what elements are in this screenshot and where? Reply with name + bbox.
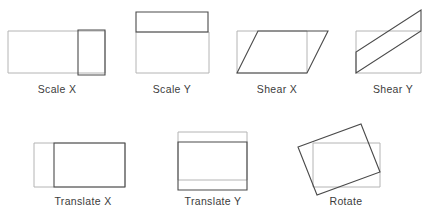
cell-shear-x: Shear X [237, 31, 328, 95]
label-translate-y: Translate Y [185, 195, 242, 207]
figure-canvas: Scale X Scale Y Shear X Shear Y Translat… [0, 0, 436, 219]
cell-rotate: Rotate [298, 124, 380, 207]
original-rect-rotate [313, 143, 380, 187]
label-scale-y: Scale Y [153, 83, 191, 95]
transformed-shape-translate-y [178, 142, 247, 190]
transformed-shape-translate-x [54, 143, 125, 187]
transformations-figure: Scale X Scale Y Shear X Shear Y Translat… [0, 0, 436, 219]
transformed-shape-scale-x [78, 30, 105, 75]
label-shear-y: Shear Y [373, 83, 413, 95]
original-rect-translate-x [34, 143, 125, 187]
transformed-shape-shear-x [237, 31, 328, 73]
cell-translate-x: Translate X [34, 143, 125, 207]
cell-scale-x: Scale X [8, 30, 105, 95]
original-rect-scale-x [8, 31, 105, 73]
original-rect-scale-y [136, 32, 209, 73]
label-rotate: Rotate [329, 195, 362, 207]
cell-shear-y: Shear Y [356, 10, 421, 95]
label-translate-x: Translate X [54, 195, 111, 207]
label-scale-x: Scale X [38, 83, 77, 95]
cell-scale-y: Scale Y [136, 12, 209, 95]
original-rect-translate-y [178, 132, 247, 180]
transformed-shape-shear-y [356, 10, 421, 73]
transformed-shape-scale-y [136, 12, 208, 32]
cell-translate-y: Translate Y [178, 132, 247, 207]
transformed-shape-rotate [298, 124, 380, 195]
label-shear-x: Shear X [257, 83, 297, 95]
